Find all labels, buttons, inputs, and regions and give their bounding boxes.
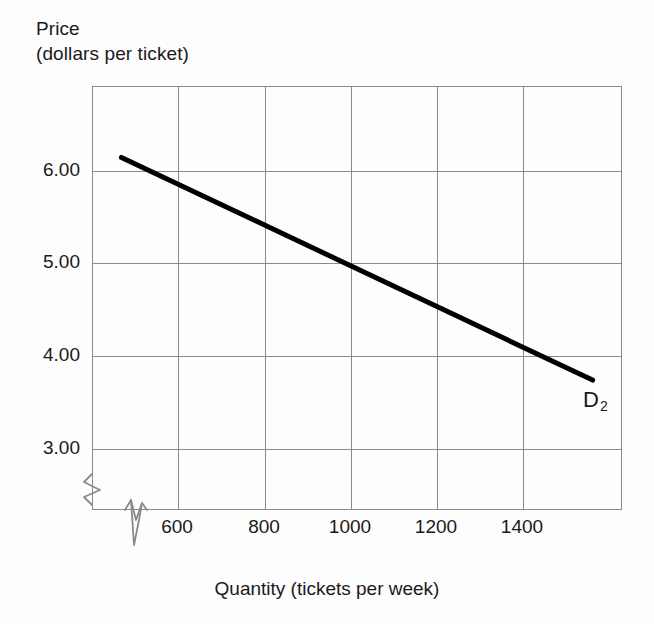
x-tick-label-1200: 1200 xyxy=(415,516,457,538)
y-tick-label-300: 3.00 xyxy=(43,437,80,459)
gridline-y-300 xyxy=(93,449,621,450)
y-axis-title: Price (dollars per ticket) xyxy=(36,16,189,66)
gridline-x-600 xyxy=(178,87,179,509)
demand-curve-figure: Price (dollars per ticket) 6.00 5.00 4.0… xyxy=(0,0,654,624)
x-tick-labels: 600 800 1000 1200 1400 xyxy=(92,516,622,546)
x-tick-label-800: 800 xyxy=(248,516,280,538)
plot-area xyxy=(92,86,622,510)
x-tick-label-1000: 1000 xyxy=(329,516,371,538)
y-axis-title-line1: Price xyxy=(36,16,189,41)
x-tick-label-600: 600 xyxy=(161,516,193,538)
y-tick-label-600: 6.00 xyxy=(43,159,80,181)
curve-label-d2: D2 xyxy=(583,387,607,413)
curve-label-subscript: 2 xyxy=(600,398,608,414)
gridline-x-1000 xyxy=(351,87,352,509)
gridline-y-500 xyxy=(93,263,621,264)
curve-label-text: D xyxy=(583,387,599,412)
y-axis-title-line2: (dollars per ticket) xyxy=(36,41,189,66)
gridline-x-800 xyxy=(265,87,266,509)
gridline-y-600 xyxy=(93,171,621,172)
y-tick-label-400: 4.00 xyxy=(43,344,80,366)
x-axis-title: Quantity (tickets per week) xyxy=(0,578,654,600)
x-tick-label-1400: 1400 xyxy=(501,516,543,538)
gridline-x-1200 xyxy=(437,87,438,509)
gridline-y-400 xyxy=(93,356,621,357)
y-tick-label-500: 5.00 xyxy=(43,251,80,273)
y-tick-labels: 6.00 5.00 4.00 3.00 xyxy=(0,86,80,510)
gridline-x-1400 xyxy=(523,87,524,509)
